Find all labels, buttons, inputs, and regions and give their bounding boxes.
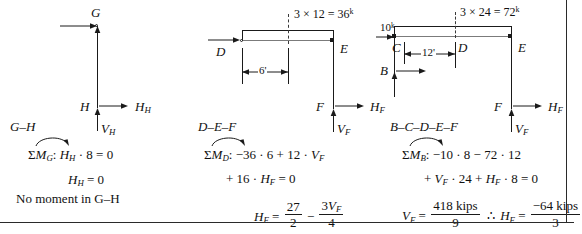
panel-g-h: G H HH VH G–H ΣMG: HH · 8 = 0	[0, 0, 190, 234]
equation-result-gh: HH = 0	[28, 165, 113, 190]
fraction-denominator: 4	[319, 215, 343, 231]
curved-moment-arrow-icon	[408, 136, 448, 148]
member-e-f-right	[511, 37, 512, 109]
panel-d-e-f: 3 × 12 = 36k D E 6' F HF VF D–E–F	[190, 0, 380, 234]
joint-label-b: B	[380, 64, 388, 77]
force-arrow-at-b-vertical	[390, 72, 400, 98]
force-label-vf-right: VF	[515, 122, 528, 137]
load-unit-de: k	[350, 7, 354, 16]
note-no-moment: No moment in G–H	[16, 191, 120, 207]
load-label-de: 3 × 12 = 36k	[294, 8, 354, 20]
equation-moment-sum-def-line2: + 16 · HF = 0	[204, 165, 345, 189]
fraction-numerator: 27	[285, 200, 302, 216]
curved-moment-arrow-icon	[210, 136, 250, 148]
fraction-27-over-2: 27 2	[285, 200, 302, 232]
colon-gh: :	[53, 147, 57, 162]
equation-block-gh: ΣMG: HH · 8 = 0 HH = 0	[28, 146, 113, 191]
joint-label-c: C	[392, 41, 401, 54]
force-arrow-hf-right	[513, 101, 547, 111]
beam-shade-ce	[395, 36, 511, 37]
page-edge-vertical-rule	[566, 0, 567, 222]
joint-label-e: E	[340, 42, 348, 55]
moment-subscript-def: D	[222, 153, 228, 163]
force-arrow-at-d	[208, 35, 244, 45]
curved-moment-arrow-icon	[34, 136, 74, 148]
equation-moment-sum-bcdef-line2: + VF · 24 + HF · 8 = 0	[402, 165, 582, 189]
free-body-label-def: D–E–F	[198, 119, 236, 135]
fraction-numerator: 3VF	[319, 199, 343, 216]
therefore-symbol: ∴	[485, 208, 497, 223]
joint-label-h: H	[80, 100, 89, 113]
free-body-label-bcdef: B–C–D–E–F	[390, 119, 458, 135]
joint-label-f-right: F	[494, 100, 502, 113]
fraction-3vf-over-4: 3VF 4	[319, 199, 343, 231]
equation-result-bcdef: VF = 418 kips 9 ∴ HF = −64 kips 3	[402, 190, 582, 231]
joint-label-f-de: F	[316, 100, 324, 113]
force-arrow-up-at-g	[93, 26, 103, 52]
fraction-418kips-over-9: 418 kips 9	[431, 199, 479, 231]
fraction-minus64kips-over-3: −64 kips 3	[531, 199, 580, 231]
force-label-hh: HH	[135, 100, 151, 115]
joint-marker-e-right	[508, 34, 512, 38]
page-edge-horizontal-rule	[0, 222, 574, 223]
joint-marker-e	[330, 38, 334, 42]
force-arrow-hh	[99, 101, 133, 111]
equation-block-bcdef: ΣMB: −10 · 8 − 72 · 12 + VF · 24 + HF · …	[402, 146, 582, 230]
joint-label-d-right: D	[458, 41, 467, 54]
equation-result-def: HF = 27 2 − 3VF 4	[204, 190, 345, 231]
load-label-bcdef: 3 × 24 = 72k	[460, 6, 520, 18]
sigma-symbol: Σ	[204, 147, 212, 162]
load-dashed-line-bcdef	[455, 12, 456, 38]
joint-label-e-right: E	[518, 41, 526, 54]
applied-load-unit: k	[391, 22, 395, 30]
joint-label-d: D	[216, 45, 225, 58]
force-label-hf-right: HF	[548, 100, 563, 115]
dot-op: ·	[79, 147, 83, 162]
load-expression-bcdef: 3 × 24 = 72	[460, 5, 516, 19]
force-label-vf-de: VF	[337, 122, 350, 137]
equation-moment-sum-def: ΣMD: −36 · 6 + 12 · VF	[204, 146, 345, 165]
load-unit-bcdef: k	[516, 5, 520, 14]
fraction-numerator: 418 kips	[431, 199, 479, 215]
force-arrow-at-b-horizontal	[396, 66, 430, 76]
equation-moment-sum-gh: ΣMG: HH · 8 = 0	[28, 146, 113, 165]
fraction-numerator: −64 kips	[531, 199, 580, 215]
member-e-f	[333, 41, 334, 109]
load-expression-de: 3 × 12 = 36	[294, 7, 350, 21]
term-hh: H	[60, 147, 69, 162]
sigma-symbol: Σ	[402, 147, 410, 162]
sigma-symbol: Σ	[28, 147, 36, 162]
dimension-label-12ft: 12'	[421, 47, 436, 58]
joint-label-g: G	[91, 6, 100, 19]
moment-symbol-m: M	[36, 147, 47, 162]
equation-moment-sum-bcdef: ΣMB: −10 · 8 − 72 · 12	[402, 146, 582, 165]
free-body-label-gh: G–H	[10, 119, 35, 135]
force-label-vh: VH	[101, 122, 115, 137]
force-arrow-hf-de	[335, 101, 369, 111]
dimension-label-6ft: 6'	[258, 65, 267, 76]
fraction-denominator: 2	[285, 215, 302, 231]
load-dashed-line-de	[288, 14, 289, 44]
equation-block-def: ΣMD: −36 · 6 + 12 · VF + 16 · HF = 0 HF …	[204, 146, 345, 231]
panel-b-c-d-e-f: 3 × 24 = 72k 10k C 12' D E B F	[380, 0, 574, 234]
moment-subscript-bcdef: B	[420, 153, 425, 163]
